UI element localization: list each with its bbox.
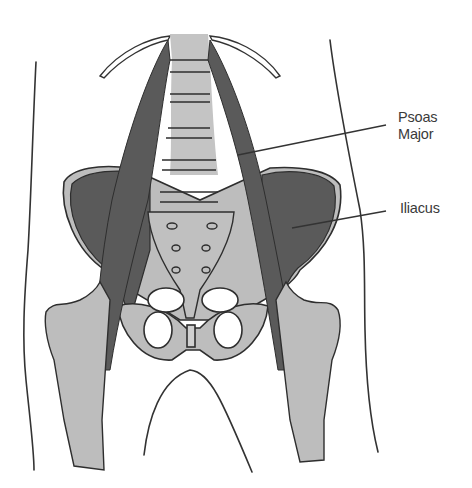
label-psoas-line1: Psoas [398, 109, 468, 126]
femur-right [276, 282, 340, 462]
femur-left [45, 282, 110, 470]
label-psoas-line2: Major [398, 126, 468, 143]
psoas-leader-line [238, 125, 386, 155]
anatomy-illustration [0, 0, 472, 488]
label-psoas-major: Psoas Major [398, 109, 468, 143]
label-iliacus: Iliacus [400, 200, 440, 217]
label-iliacus-line1: Iliacus [400, 200, 440, 217]
